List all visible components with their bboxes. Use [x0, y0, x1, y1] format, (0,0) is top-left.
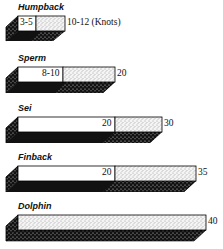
- bar-bottom-face: [6, 230, 206, 241]
- value-label-max: 40: [208, 216, 218, 226]
- value-label-max: 30: [164, 118, 174, 128]
- value-label-max: 20: [117, 68, 127, 78]
- value-label-cruising: 8-10: [42, 68, 59, 78]
- bar-dolphin: [6, 215, 206, 241]
- bar-segment-max: [115, 166, 196, 181]
- category-label-finback: Finback: [18, 152, 52, 162]
- bar-humpback: [6, 16, 65, 41]
- value-label-cruising: 20: [102, 167, 112, 177]
- bar-bottom-face-stipple: [103, 181, 196, 192]
- bar-segment-cruising: [18, 166, 115, 181]
- bar-finback: [6, 166, 196, 192]
- bar-sei: [6, 117, 162, 143]
- bar-segment-max: [115, 117, 162, 132]
- bar-segment-max: [63, 67, 115, 82]
- value-label-max: 35: [198, 167, 208, 177]
- bar-segment-max: [36, 16, 65, 31]
- bar-sperm: [6, 67, 115, 93]
- category-label-dolphin: Dolphin: [18, 201, 52, 211]
- value-label-max: 10-12 (Knots): [67, 17, 121, 27]
- value-label-cruising: 20: [102, 118, 112, 128]
- value-label-cruising: 3-5: [20, 17, 33, 27]
- category-label-humpback: Humpback: [18, 2, 64, 12]
- bar-segment-cruising: [18, 117, 115, 132]
- category-label-sei: Sei: [18, 103, 32, 113]
- category-label-sperm: Sperm: [18, 53, 46, 63]
- bar-segment-max: [18, 215, 206, 230]
